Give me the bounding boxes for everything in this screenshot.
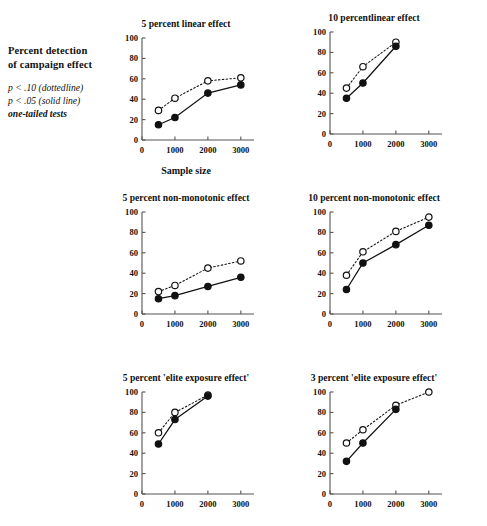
- y-tick-label: 40: [129, 268, 138, 278]
- y-tick-label: 40: [317, 88, 326, 98]
- y-tick-label: 20: [129, 115, 138, 125]
- data-point-filled: [393, 43, 399, 49]
- data-point-filled: [238, 274, 244, 280]
- data-point-filled: [155, 296, 161, 302]
- chart-plot-4: 0204060801000100020003000: [300, 206, 448, 338]
- y-tick-label: 80: [317, 47, 326, 57]
- x-tick-label: 1000: [354, 499, 371, 509]
- chart-plot-3: 0204060801000100020003000: [112, 206, 260, 338]
- y-tick-label: 20: [317, 469, 326, 479]
- data-point-open: [343, 85, 349, 91]
- y-tick-label: 40: [317, 268, 326, 278]
- data-point-filled: [205, 90, 211, 96]
- data-point-open: [360, 63, 366, 69]
- y-tick-label: 40: [317, 448, 326, 458]
- data-point-open: [155, 107, 161, 113]
- y-tick-label: 60: [129, 248, 138, 258]
- x-tick-label: 3000: [420, 139, 437, 149]
- y-tick-label: 100: [125, 207, 138, 217]
- legend-title: Percent detection of campaign effect: [8, 44, 112, 72]
- data-point-open: [155, 430, 161, 436]
- series-line-solid: [346, 46, 395, 98]
- y-tick-label: 0: [322, 489, 326, 499]
- data-point-filled: [205, 393, 211, 399]
- y-tick-label: 60: [317, 428, 326, 438]
- data-point-filled: [360, 260, 366, 266]
- y-tick-label: 0: [134, 489, 138, 499]
- data-point-open: [238, 258, 244, 264]
- y-tick-label: 80: [129, 407, 138, 417]
- y-tick-label: 20: [129, 469, 138, 479]
- chart-plot-5: 0204060801000100020003000: [112, 386, 260, 518]
- y-tick-label: 60: [317, 68, 326, 78]
- y-tick-label: 80: [317, 407, 326, 417]
- y-tick-label: 80: [317, 227, 326, 237]
- legend-notes: p < .10 (dottedline) p < .05 (solid line…: [8, 81, 112, 120]
- series-line-solid: [346, 409, 395, 461]
- y-tick-label: 0: [322, 309, 326, 319]
- y-tick-label: 60: [317, 248, 326, 258]
- y-tick-label: 20: [317, 109, 326, 119]
- figure-panel-grid: Percent detection of campaign effect p <…: [0, 0, 487, 526]
- x-tick-label: 1000: [166, 145, 183, 155]
- y-tick-label: 40: [129, 94, 138, 104]
- x-tick-label: 2000: [199, 145, 216, 155]
- chart-title-6: 3 percent 'elite exposure effect': [300, 372, 448, 383]
- data-point-open: [360, 249, 366, 255]
- data-point-filled: [426, 222, 432, 228]
- data-point-open: [426, 214, 432, 220]
- chart-plot-2: 0204060801000100020003000: [300, 26, 448, 158]
- chart-panel-4: 10 percent non-monotonic effect020406080…: [300, 192, 448, 324]
- y-tick-label: 80: [129, 227, 138, 237]
- x-tick-label: 1000: [354, 139, 371, 149]
- data-point-filled: [172, 114, 178, 120]
- data-point-open: [205, 265, 211, 271]
- data-point-open: [172, 95, 178, 101]
- x-tick-label: 2000: [387, 499, 404, 509]
- y-tick-label: 100: [313, 27, 326, 37]
- x-tick-label: 1000: [166, 319, 183, 329]
- data-point-filled: [343, 286, 349, 292]
- x-tick-label: 0: [328, 319, 332, 329]
- data-point-open: [393, 228, 399, 234]
- x-tick-label: 3000: [420, 319, 437, 329]
- y-tick-label: 60: [129, 428, 138, 438]
- data-point-filled: [155, 441, 161, 447]
- x-tick-label: 2000: [199, 499, 216, 509]
- data-point-open: [155, 288, 161, 294]
- legend-note-p05: p < .05 (solid line): [8, 94, 112, 107]
- chart-plot-6: 0204060801000100020003000: [300, 386, 448, 518]
- chart-title-3: 5 percent non-monotonic effect: [112, 192, 260, 203]
- chart-panel-6: 3 percent 'elite exposure effect'0204060…: [300, 372, 448, 504]
- data-point-open: [426, 389, 432, 395]
- chart-panel-1: 5 percent linear effect02040608010001000…: [112, 18, 260, 168]
- chart-title-4: 10 percent non-monotonic effect: [300, 192, 448, 203]
- data-point-open: [172, 282, 178, 288]
- data-point-filled: [238, 82, 244, 88]
- data-point-open: [205, 78, 211, 84]
- legend-note-p10: p < .10 (dottedline): [8, 81, 112, 94]
- x-tick-label: 0: [140, 319, 144, 329]
- x-tick-label: 0: [328, 139, 332, 149]
- chart-title-2: 10 percentlinear effect: [300, 12, 448, 23]
- data-point-open: [343, 440, 349, 446]
- y-tick-label: 0: [322, 129, 326, 139]
- series-line-dotted: [346, 217, 428, 275]
- data-point-filled: [393, 406, 399, 412]
- legend-title-line2: of campaign effect: [8, 58, 112, 72]
- data-point-filled: [155, 122, 161, 128]
- data-point-open: [343, 272, 349, 278]
- x-tick-label: 3000: [232, 319, 249, 329]
- legend-block: Percent detection of campaign effect p <…: [8, 44, 112, 120]
- data-point-filled: [343, 95, 349, 101]
- series-line-dotted: [158, 261, 240, 292]
- y-tick-label: 0: [134, 135, 138, 145]
- series-line-dotted: [158, 78, 240, 111]
- x-tick-label: 3000: [232, 499, 249, 509]
- y-tick-label: 100: [125, 33, 138, 43]
- chart-panel-5: 5 percent 'elite exposure effect'0204060…: [112, 372, 260, 504]
- y-tick-label: 20: [317, 289, 326, 299]
- y-tick-label: 100: [125, 387, 138, 397]
- data-point-open: [360, 427, 366, 433]
- y-tick-label: 100: [313, 387, 326, 397]
